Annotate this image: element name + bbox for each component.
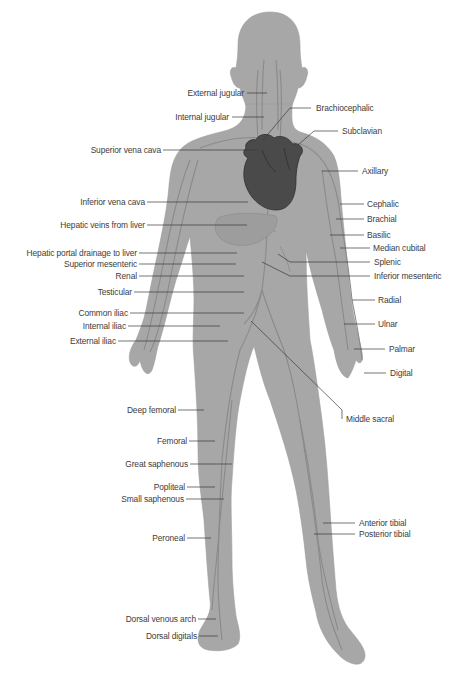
label-femoral: Femoral — [157, 436, 187, 446]
label-external-iliac: External iliac — [70, 336, 116, 346]
label-median-cubital: Median cubital — [373, 243, 426, 253]
label-internal-jugular: Internal jugular — [175, 112, 229, 122]
label-great-saphenous: Great saphenous — [125, 459, 188, 469]
label-radial: Radial — [378, 295, 401, 305]
label-splenic: Splenic — [374, 257, 401, 267]
label-axillary: Axillary — [362, 166, 388, 176]
label-basilic: Basilic — [367, 230, 391, 240]
venous-system-diagram: External jugular Internal jugular Superi… — [0, 0, 461, 677]
label-superior-mesenteric: Superior mesenteric — [64, 259, 137, 269]
label-hepatic-veins-from-liver: Hepatic veins from liver — [60, 220, 145, 230]
label-dorsal-digitals: Dorsal digitals — [146, 631, 197, 641]
label-common-iliac: Common iliac — [78, 308, 128, 318]
label-inferior-mesenteric: Inferior mesenteric — [374, 271, 441, 281]
label-external-jugular: External jugular — [187, 88, 244, 98]
label-ulnar: Ulnar — [378, 319, 398, 329]
label-superior-vena-cava: Superior vena cava — [91, 145, 161, 155]
label-middle-sacral: Middle sacral — [346, 414, 394, 424]
label-anterior-tibial: Anterior tibial — [359, 518, 406, 528]
label-subclavian: Subclavian — [342, 126, 382, 136]
label-brachial: Brachial — [367, 214, 396, 224]
label-renal: Renal — [116, 271, 137, 281]
label-popliteal: Popliteal — [154, 482, 185, 492]
label-digital: Digital — [390, 368, 413, 378]
label-testicular: Testicular — [98, 287, 132, 297]
label-inferior-vena-cava: Inferior vena cava — [80, 197, 145, 207]
label-brachiocephalic: Brachiocephalic — [316, 103, 374, 113]
label-small-saphenous: Small saphenous — [121, 494, 184, 504]
label-hepatic-portal-drainage: Hepatic portal drainage to liver — [27, 248, 137, 258]
label-posterior-tibial: Posterior tibial — [359, 529, 410, 539]
label-deep-femoral: Deep femoral — [127, 405, 176, 415]
label-dorsal-venous-arch: Dorsal venous arch — [126, 614, 196, 624]
label-palmar: Palmar — [389, 344, 415, 354]
label-internal-iliac: Internal iliac — [83, 321, 126, 331]
label-cephalic: Cephalic — [367, 199, 399, 209]
label-peroneal: Peroneal — [152, 533, 185, 543]
